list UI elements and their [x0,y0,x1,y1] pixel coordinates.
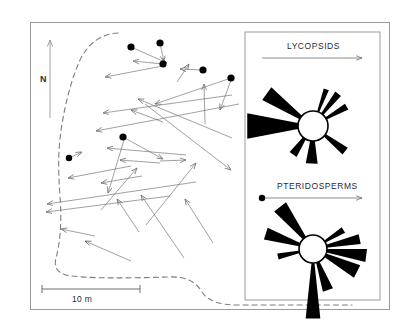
trunk-base-dot [159,60,166,67]
fallen-log-arrow [204,84,205,124]
fallen-log-arrow [120,160,160,163]
fallen-log-arrow [133,61,163,64]
trunk-base-dot [66,155,72,161]
legend-title-lycopsids: LYCOPSIDS [287,41,340,51]
scale-bar [42,285,140,293]
fallen-log-arrow [160,160,186,161]
fallen-log-arrow [155,78,231,104]
trunk-base-dot [119,133,126,140]
fallen-log-arrow [101,168,137,210]
fallen-log-arrow [146,163,196,225]
fallen-log-arrow [85,241,131,261]
rose-center-circle [299,235,327,263]
fallen-log-arrow [103,95,232,113]
figure-canvas [0,0,420,336]
fallen-log-arrow [185,199,213,243]
fossil-forest-figure: N 10 m LYCOPSIDS PTERIDOSPERMS [0,0,420,336]
trunk-base-dot [227,74,234,81]
legend-trunk-base-dot [259,195,265,201]
trunk-base-dot [127,43,134,50]
fallen-log-arrows [46,43,239,261]
fallen-log-arrow [177,64,189,82]
trunk-base-dot [156,39,163,46]
fallen-log-arrow [101,176,142,183]
fallen-log-arrow [61,229,95,236]
scale-bar-label: 10 m [72,294,92,304]
fallen-log-arrow [96,104,239,131]
fallen-log-arrow [117,199,139,232]
trunk-base-dot [199,66,206,73]
fallen-log-arrow [47,182,196,204]
fallen-log-arrow [105,66,163,77]
fallen-log-arrow [108,140,124,193]
legend-panel [245,32,380,319]
fallen-log-arrow [107,148,186,155]
fallen-log-arrow [123,137,163,159]
north-arrow-label: N [39,73,48,85]
fallen-log-arrow [46,196,170,212]
fallen-log-arrow [131,110,163,122]
rose-center-circle [298,111,328,141]
trunk-bases [66,39,235,161]
fallen-log-arrow [138,99,232,138]
fallen-log-arrow [68,166,131,178]
legend-title-pteridosperms: PTERIDOSPERMS [277,181,358,191]
